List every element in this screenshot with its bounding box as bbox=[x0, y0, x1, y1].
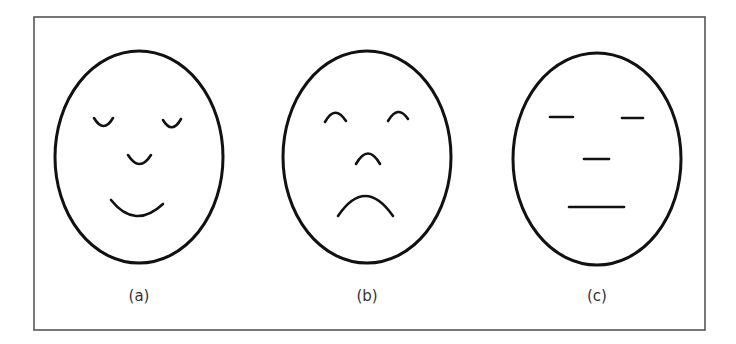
face-b-sad: (b) bbox=[283, 51, 451, 305]
face-b-mouth-frown-icon bbox=[338, 196, 393, 216]
face-a-nose-icon bbox=[128, 155, 151, 164]
face-a-mouth-smile-icon bbox=[111, 200, 163, 216]
faces-figure: (a) (b) (c) bbox=[0, 0, 736, 344]
face-a-left-eye-icon bbox=[94, 118, 113, 126]
face-b-left-eye-icon bbox=[325, 113, 346, 122]
figure-frame bbox=[34, 17, 705, 330]
face-b-right-eye-icon bbox=[388, 112, 408, 121]
face-c-neutral: (c) bbox=[513, 53, 681, 305]
face-b-outline bbox=[283, 51, 451, 263]
face-a-label: (a) bbox=[129, 287, 150, 305]
face-b-label: (b) bbox=[356, 287, 377, 305]
face-b-nose-icon bbox=[356, 154, 380, 165]
face-a-outline bbox=[55, 51, 223, 263]
face-c-label: (c) bbox=[587, 287, 607, 305]
face-a-right-eye-icon bbox=[163, 119, 181, 127]
face-a-happy: (a) bbox=[55, 51, 223, 305]
